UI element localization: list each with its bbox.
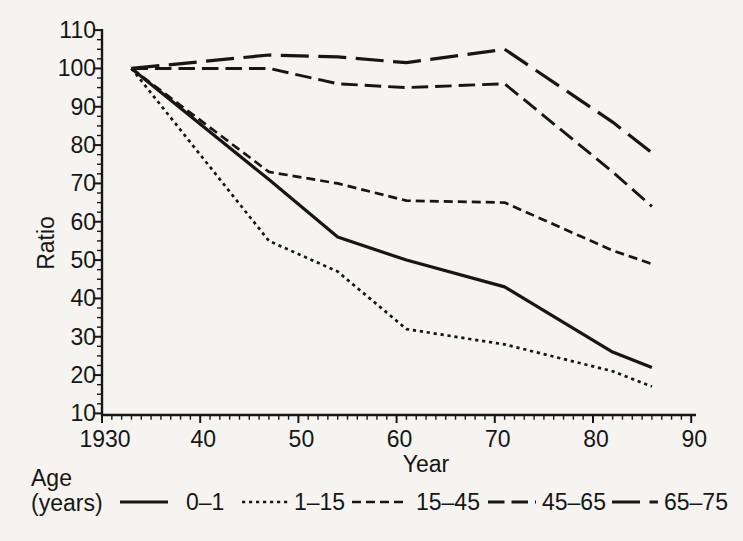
- legend-item-45–65: 45–65: [488, 491, 606, 513]
- x-tick-label: 60: [387, 426, 413, 452]
- x-tick-label: 90: [681, 426, 707, 452]
- legend-item-1–15: 1–15: [242, 491, 345, 513]
- y-axis-title: Ratio: [33, 203, 59, 283]
- y-tick-label: 110: [59, 17, 96, 43]
- y-tick-label: 30: [70, 324, 96, 350]
- y-tick-label: 90: [70, 94, 96, 120]
- legend-line-sample-dotted: [242, 491, 288, 513]
- legend-line-sample-long-dash: [488, 491, 536, 513]
- legend-title-line1: Age: [31, 466, 72, 490]
- x-tick-label: 40: [190, 426, 216, 452]
- x-tick-label: 50: [289, 426, 315, 452]
- y-tick-label: 80: [70, 132, 96, 158]
- series-line-1–15: [131, 68, 651, 386]
- legend-line-sample-dashed: [352, 491, 408, 513]
- x-tick-label: 80: [583, 426, 609, 452]
- y-tick-label: 50: [70, 247, 96, 273]
- y-tick-label: 10: [70, 400, 96, 426]
- legend-label: 0–1: [186, 491, 224, 513]
- line-chart-plot: 1101009080706050403020101930405060708090: [0, 0, 743, 541]
- x-tick-label: 70: [485, 426, 511, 452]
- y-tick-label: 20: [70, 362, 96, 388]
- x-axis-title: Year: [386, 452, 466, 476]
- legend-label: 65–75: [664, 491, 728, 513]
- series-line-45–65: [131, 68, 651, 206]
- legend-title-line2: (years): [31, 491, 103, 515]
- legend-item-15–45: 15–45: [352, 491, 480, 513]
- chart-figure: 1101009080706050403020101930405060708090…: [0, 0, 743, 541]
- x-tick-label: 1930: [79, 426, 130, 452]
- legend-line-sample-solid: [120, 491, 168, 513]
- legend-item-65–75: 65–75: [612, 491, 728, 513]
- legend-label: 15–45: [416, 491, 480, 513]
- series-line-0–1: [131, 68, 651, 367]
- y-tick-label: 100: [58, 55, 96, 81]
- y-tick-label: 40: [70, 285, 96, 311]
- legend-line-sample-extra-long-dash: [612, 491, 658, 513]
- legend-item-0–1: 0–1: [120, 491, 224, 513]
- y-tick-label: 60: [70, 209, 96, 235]
- series-line-65–75: [131, 49, 651, 152]
- y-tick-label: 70: [70, 170, 96, 196]
- legend-label: 1–15: [294, 491, 345, 513]
- legend-label: 45–65: [542, 491, 606, 513]
